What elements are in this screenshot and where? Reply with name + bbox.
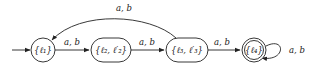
edge-label-s2-s3: a, b bbox=[139, 37, 155, 47]
edge-label-s3-s4: a, b bbox=[214, 37, 230, 47]
state-label-s3: {ℓ₃, ℓ′₃} bbox=[171, 45, 203, 55]
state-label-s2: {ℓ₂, ℓ′₂} bbox=[95, 45, 127, 55]
state-s1: {ℓ₁} bbox=[31, 38, 55, 62]
state-label-s1: {ℓ₁} bbox=[34, 45, 52, 55]
state-label-s4: {ℓ₄} bbox=[245, 45, 263, 55]
state-s3: {ℓ₃, ℓ′₃} bbox=[166, 38, 208, 62]
edge-label-s4-loop: a, b bbox=[289, 45, 305, 55]
automaton-diagram: a, b a, b a, b a, b a, b {ℓ₁} {ℓ₂, ℓ′₂} … bbox=[0, 0, 316, 70]
edge-label-s3-s1: a, b bbox=[116, 3, 132, 13]
state-s4-accepting: {ℓ₄} bbox=[242, 38, 266, 62]
edge-label-s1-s2: a, b bbox=[64, 37, 80, 47]
state-s2: {ℓ₂, ℓ′₂} bbox=[91, 38, 131, 62]
